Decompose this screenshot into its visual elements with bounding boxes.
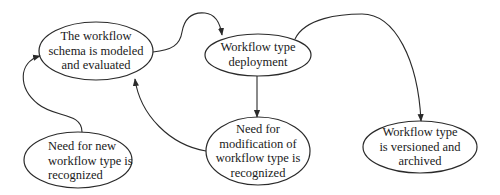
- edge-deployment-to-versioned: [295, 14, 421, 121]
- label-line: modification of: [208, 137, 308, 152]
- label-line: workflow type is: [208, 151, 308, 166]
- label-line: Need for new: [48, 139, 138, 154]
- label-line: Workflow type: [370, 125, 470, 140]
- node-schema-label: The workflow schema is modeled and evalu…: [46, 29, 146, 73]
- edge-need-modification-to-schema: [135, 79, 206, 151]
- node-deployment-label: Workflow type deployment: [208, 40, 308, 69]
- label-line: archived: [370, 154, 470, 169]
- label-line: and evaluated: [46, 58, 146, 73]
- label-line: Need for: [208, 122, 308, 137]
- label-line: deployment: [208, 55, 308, 70]
- label-line: The workflow: [46, 29, 146, 44]
- label-line: workflow type is: [48, 154, 138, 169]
- label-line: Workflow type: [208, 40, 308, 55]
- label-line: recognized: [208, 166, 308, 181]
- label-line: recognized: [48, 168, 138, 183]
- workflow-lifecycle-diagram: The workflow schema is modeled and evalu…: [0, 0, 500, 195]
- node-need-new-label: Need for new workflow type is recognized: [48, 139, 138, 183]
- node-need-modification-label: Need for modification of workflow type i…: [208, 122, 308, 180]
- label-line: schema is modeled: [46, 44, 146, 59]
- label-line: is versioned and: [370, 140, 470, 155]
- node-versioned-label: Workflow type is versioned and archived: [370, 125, 470, 169]
